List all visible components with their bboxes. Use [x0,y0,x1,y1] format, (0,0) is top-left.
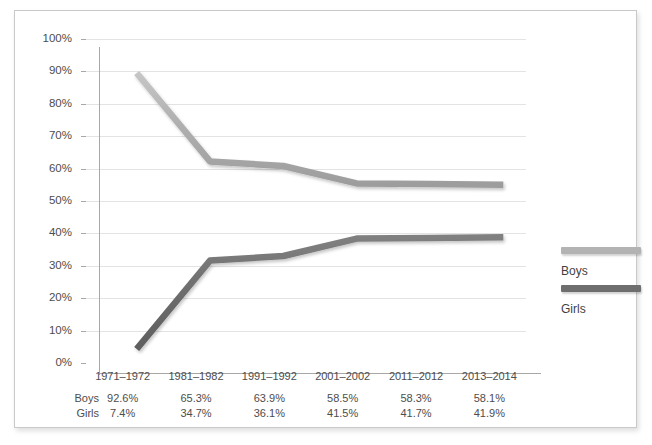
data-table-cell: 58.3% [376,393,456,404]
chart-legend: BoysGirls [555,247,647,327]
series-line-boys [137,73,504,185]
x-axis-category-label: 2011–2012 [376,371,456,382]
data-table-cell: 7.4% [83,408,163,419]
x-axis-category-label: 1981–1982 [156,371,236,382]
x-axis-category-label: 2013–2014 [449,371,529,382]
data-table-cell: 58.5% [303,393,383,404]
data-table-cell: 65.3% [156,393,236,404]
x-axis-category-label: 1991–1992 [229,371,309,382]
legend-swatch-girls [561,285,641,292]
x-axis-category-label: 2001–2002 [303,371,383,382]
data-table-cell: 41.5% [303,408,383,419]
chart-screenshot: 0%10%20%30%40%50%60%70%80%90%100% [0,0,652,445]
legend-label-boys: Boys [561,265,588,277]
data-table-cell: 58.1% [449,393,529,404]
data-table-cell: 63.9% [229,393,309,404]
chart-frame: 0%10%20%30%40%50%60%70%80%90%100% [14,10,637,428]
data-table-cell: 41.7% [376,408,456,419]
data-table-cell: 36.1% [229,408,309,419]
legend-label-girls: Girls [561,303,586,315]
data-table-cell: 92.6% [83,393,163,404]
legend-swatch-boys [561,247,641,254]
data-table-cell: 41.9% [449,408,529,419]
data-table-cell: 34.7% [156,408,236,419]
series-line-girls [137,237,504,349]
x-axis-category-label: 1971–1972 [83,371,163,382]
